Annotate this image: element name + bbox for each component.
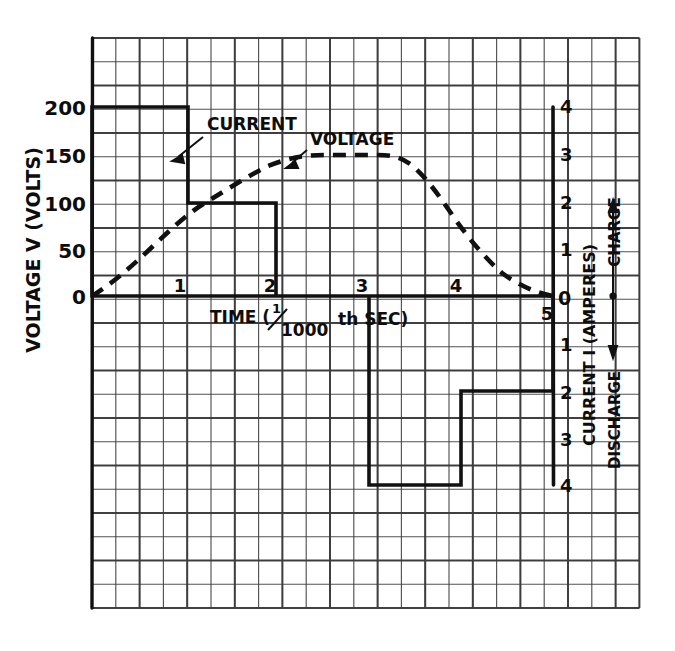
right-tick-neg-4: 4: [560, 475, 573, 496]
voltage-annotation-label: VOLTAGE: [310, 129, 394, 149]
x-axis-title-tail: th SEC): [338, 309, 408, 329]
discharge-label: DISCHARGE: [606, 371, 624, 469]
right-tick-neg-1: 1: [560, 334, 573, 355]
right-tick-pos-3: 3: [560, 144, 573, 165]
x-axis-title-numerator: 1: [272, 301, 281, 316]
left-axis-title-text: VOLTAGE V (VOLTS): [22, 147, 44, 353]
right-axis-title-text: CURRENT I (AMPERES): [580, 244, 599, 446]
left-tick-100: 100: [44, 192, 86, 216]
left-tick-150: 150: [44, 144, 86, 168]
x-tick-1: 1: [174, 275, 187, 296]
x-axis-title-denominator: 1000: [281, 320, 328, 340]
left-tick-0: 0: [72, 285, 86, 309]
right-tick-neg-2: 2: [560, 382, 573, 403]
left-axis-title: VOLTAGE V (VOLTS): [22, 147, 44, 353]
right-tick-pos-1: 1: [560, 239, 573, 260]
current-annotation-label: CURRENT: [207, 114, 297, 134]
right-tick-pos-2: 2: [560, 192, 573, 213]
chart-figure: 200 150 100 50 0 VOLTAGE V (VOLTS) 1 2 3…: [0, 0, 675, 651]
right-tick-neg-3: 3: [560, 429, 573, 450]
left-tick-200: 200: [44, 96, 86, 120]
left-tick-50: 50: [58, 239, 86, 263]
right-axis-title: CURRENT I (AMPERES): [580, 244, 599, 446]
arrow-origin-dot: [610, 293, 615, 298]
x-tick-3: 3: [356, 275, 369, 296]
right-axis-tick-labels: 4 3 2 1 0 1 2 3 4: [558, 96, 573, 496]
chart-canvas: 200 150 100 50 0 VOLTAGE V (VOLTS) 1 2 3…: [0, 0, 675, 651]
right-tick-pos-4: 4: [560, 96, 573, 117]
x-tick-4: 4: [450, 275, 463, 296]
x-axis-title-lead: TIME (: [210, 307, 270, 327]
right-tick-zero: 0: [558, 287, 571, 309]
